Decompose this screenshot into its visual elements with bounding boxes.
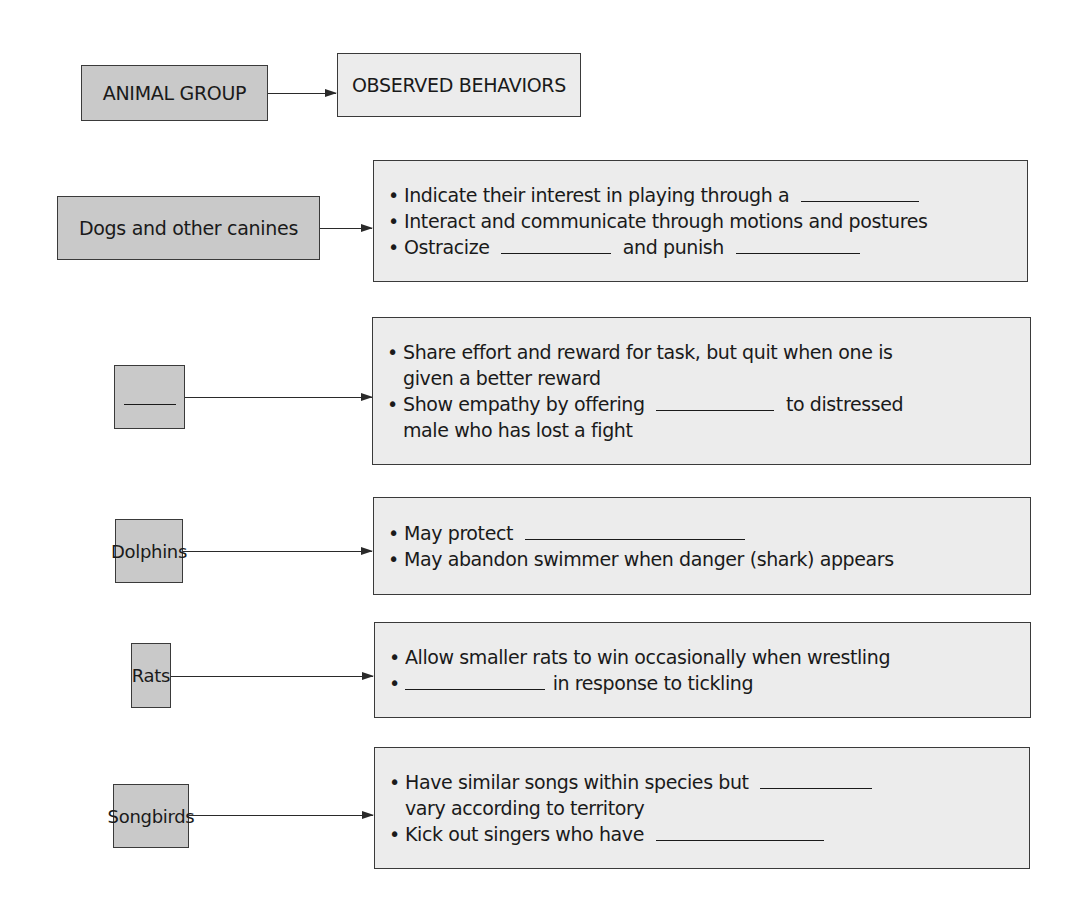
fill-in-blank[interactable]	[760, 770, 872, 789]
fill-in-blank[interactable]	[501, 235, 611, 254]
arrow-dogs	[320, 228, 372, 229]
fill-in-blank[interactable]	[525, 521, 745, 540]
behavior-item: Ostracize and punish	[388, 234, 1017, 260]
behaviors-box-blank-group: Share effort and reward for task, but qu…	[372, 317, 1031, 465]
behaviors-box-rats: Allow smaller rats to win occasionally w…	[374, 622, 1031, 718]
group-box-blank	[114, 365, 185, 429]
group-label-rats: Rats	[132, 665, 170, 686]
behavior-item: Show empathy by offering to distressed	[387, 391, 1020, 417]
fill-in-blank[interactable]	[656, 392, 774, 411]
arrow-rats	[171, 676, 373, 677]
header-observed-behaviors-box: OBSERVED BEHAVIORS	[337, 53, 581, 117]
behavior-item: May abandon swimmer when danger (shark) …	[388, 546, 1020, 572]
group-box-dogs: Dogs and other canines	[57, 196, 320, 260]
group-box-rats: Rats	[131, 643, 171, 708]
behavior-item: Indicate their interest in playing throu…	[388, 182, 1017, 208]
fill-in-blank[interactable]	[736, 235, 860, 254]
behavior-item: Allow smaller rats to win occasionally w…	[389, 644, 1020, 670]
arrow-blank-group	[185, 397, 372, 398]
header-animal-group-box: ANIMAL GROUP	[81, 65, 268, 121]
fill-in-blank[interactable]	[801, 183, 919, 202]
behavior-item: Kick out singers who have	[389, 821, 1019, 847]
behavior-item: in response to tickling	[389, 670, 1020, 696]
behaviors-box-songbirds: Have similar songs within species but va…	[374, 747, 1030, 869]
behaviors-box-dogs: Indicate their interest in playing throu…	[373, 160, 1028, 282]
header-observed-behaviors-label: OBSERVED BEHAVIORS	[352, 74, 566, 96]
behaviors-box-dolphins: May protect May abandon swimmer when dan…	[373, 497, 1031, 595]
behavior-item-continuation: given a better reward	[387, 365, 1020, 391]
group-label-songbirds: Songbirds	[108, 806, 195, 827]
group-label-dolphins: Dolphins	[111, 541, 187, 562]
behavior-item: Interact and communicate through motions…	[388, 208, 1017, 234]
header-arrow	[268, 93, 336, 94]
arrow-songbirds	[189, 815, 373, 816]
header-animal-group-label: ANIMAL GROUP	[103, 82, 246, 104]
group-label-dogs: Dogs and other canines	[79, 217, 298, 239]
behavior-item: Share effort and reward for task, but qu…	[387, 339, 1020, 365]
behavior-item: May protect	[388, 520, 1020, 546]
group-box-songbirds: Songbirds	[113, 784, 189, 848]
group-fill-in-blank[interactable]	[124, 404, 176, 405]
group-box-dolphins: Dolphins	[115, 519, 183, 583]
fill-in-blank[interactable]	[656, 822, 824, 841]
behavior-item-continuation: male who has lost a fight	[387, 417, 1020, 443]
fill-in-blank[interactable]	[405, 671, 545, 690]
arrow-dolphins	[183, 551, 372, 552]
behavior-item-continuation: vary according to territory	[389, 795, 1019, 821]
behavior-item: Have similar songs within species but	[389, 769, 1019, 795]
